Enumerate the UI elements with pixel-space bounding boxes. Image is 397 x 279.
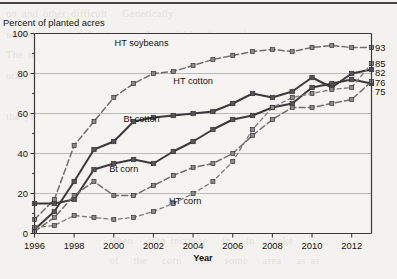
end-label-bt-cotton: 75 <box>375 86 385 97</box>
data-point <box>171 174 175 178</box>
data-point <box>211 180 215 184</box>
xtick-label-1996: 1996 <box>24 240 45 251</box>
data-point <box>72 179 76 183</box>
data-point <box>211 58 215 62</box>
data-point <box>290 106 294 110</box>
data-point <box>92 216 96 220</box>
annotation-bt-corn: Bt corn <box>109 164 138 174</box>
data-point <box>132 216 136 220</box>
data-point <box>151 184 155 188</box>
data-point <box>52 198 56 202</box>
xtick-label-2008: 2008 <box>262 240 283 251</box>
annotation-ht-cotton: HT cotton <box>173 76 213 86</box>
data-point <box>250 91 254 95</box>
ytick-label-0: 0 <box>23 228 28 239</box>
xtick-label-2012: 2012 <box>341 240 362 251</box>
data-point <box>211 109 215 113</box>
annotation-ht-corn: HT corn <box>169 196 202 206</box>
x-axis-title: Year <box>193 253 213 263</box>
data-point <box>231 54 235 58</box>
data-point <box>350 46 354 50</box>
data-point <box>350 98 354 102</box>
data-point <box>151 210 155 214</box>
data-point <box>92 147 96 151</box>
data-point <box>52 216 56 220</box>
data-point <box>270 118 274 122</box>
ytick-label-60: 60 <box>18 108 28 119</box>
data-point <box>112 139 116 143</box>
data-point <box>112 96 116 100</box>
data-point <box>151 72 155 76</box>
data-point <box>191 111 195 115</box>
data-point <box>72 144 76 148</box>
data-point <box>112 218 116 222</box>
end-label-ht-soybeans: 93 <box>375 42 385 53</box>
chart-header-label: Percent of planted acres <box>3 17 105 28</box>
data-point <box>330 102 334 106</box>
data-point <box>92 180 96 184</box>
xtick-label-2006: 2006 <box>222 240 243 251</box>
data-point <box>349 77 353 81</box>
data-point <box>191 166 195 170</box>
data-point <box>310 85 314 89</box>
data-point <box>92 167 96 171</box>
data-point <box>191 64 195 68</box>
data-point <box>171 149 175 153</box>
data-point <box>330 88 334 92</box>
data-point <box>132 82 136 86</box>
data-point <box>151 161 155 165</box>
data-point <box>251 128 255 132</box>
annotation-bt-cotton: Bt cotton <box>123 114 159 124</box>
line-chart: 0204060801001996199820002002200420062008… <box>0 0 397 279</box>
plot-background <box>35 34 372 234</box>
xtick-label-2002: 2002 <box>143 240 164 251</box>
data-point <box>52 201 56 205</box>
data-point <box>72 214 76 218</box>
data-point <box>310 106 314 110</box>
data-point <box>131 157 135 161</box>
data-point <box>349 71 353 75</box>
data-point <box>52 224 56 228</box>
ytick-label-20: 20 <box>18 188 28 199</box>
data-point <box>310 92 314 96</box>
chart-container: 0204060801001996199820002002200420062008… <box>0 0 397 279</box>
data-point <box>171 70 175 74</box>
data-point <box>132 194 136 198</box>
data-point <box>52 209 56 213</box>
data-point <box>350 86 354 90</box>
data-point <box>231 101 235 105</box>
data-point <box>251 50 255 54</box>
data-point <box>211 162 215 166</box>
annotation-ht-soybeans: HT soybeans <box>115 38 169 48</box>
data-point <box>290 50 294 54</box>
data-point <box>231 152 235 156</box>
data-point <box>310 75 314 79</box>
data-point <box>171 113 175 117</box>
xtick-label-2000: 2000 <box>103 240 124 251</box>
data-point <box>330 44 334 48</box>
data-point <box>330 81 334 85</box>
data-point <box>231 117 235 121</box>
data-point <box>290 101 294 105</box>
ytick-label-40: 40 <box>18 148 28 159</box>
data-point <box>290 96 294 100</box>
data-point <box>270 106 274 110</box>
ytick-label-80: 80 <box>18 68 28 79</box>
data-point <box>191 139 195 143</box>
data-point <box>270 48 274 52</box>
data-point <box>112 194 116 198</box>
data-point <box>211 127 215 131</box>
data-point <box>250 113 254 117</box>
data-point <box>72 194 76 198</box>
data-point <box>92 120 96 124</box>
xtick-label-2004: 2004 <box>183 240 204 251</box>
data-point <box>270 95 274 99</box>
data-point <box>251 134 255 138</box>
ytick-label-100: 100 <box>12 28 28 39</box>
xtick-label-2010: 2010 <box>302 240 323 251</box>
data-point <box>290 89 294 93</box>
data-point <box>310 46 314 50</box>
xtick-label-1998: 1998 <box>64 240 85 251</box>
data-point <box>231 160 235 164</box>
